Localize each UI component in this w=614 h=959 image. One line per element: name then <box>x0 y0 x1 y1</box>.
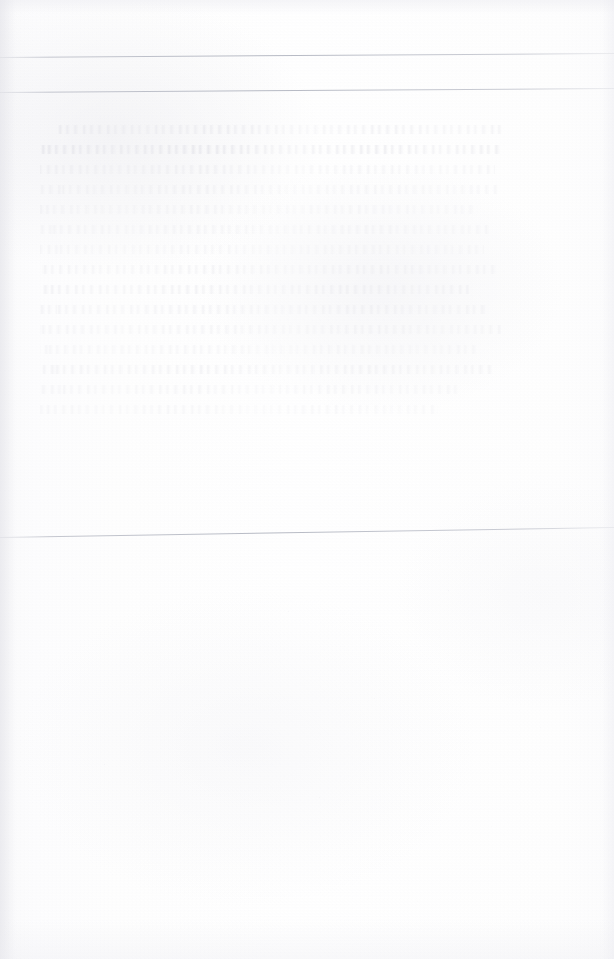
ghost-text-line <box>40 165 495 174</box>
ghost-text-line <box>40 405 438 414</box>
lower-region-speckle <box>0 545 614 959</box>
ghost-text-line <box>40 325 501 334</box>
ghost-text-line <box>40 225 491 234</box>
ghost-text-line <box>40 265 497 274</box>
ghost-text-line <box>58 125 505 134</box>
ghost-text-line <box>40 245 484 254</box>
scanned-page <box>0 0 614 959</box>
ghost-text-line <box>40 345 476 354</box>
ghost-text-line <box>40 365 492 374</box>
ghost-text-line <box>40 145 502 154</box>
ghost-text-line <box>40 285 470 294</box>
ghost-text-line <box>40 185 500 194</box>
ghost-text-line <box>40 305 489 314</box>
scan-edge-shadow-top <box>0 0 614 14</box>
ghost-text-line <box>40 205 478 214</box>
ghost-text-line <box>40 385 460 394</box>
ghost-text-block <box>40 125 505 420</box>
